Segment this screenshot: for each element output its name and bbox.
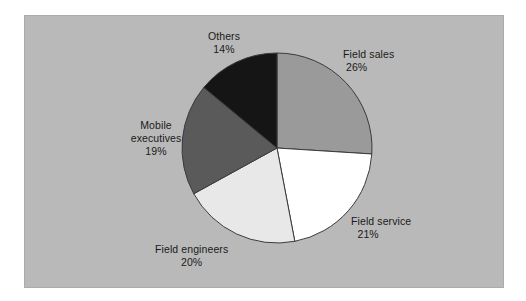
- pie-label-field-sales: Field sales 26%: [343, 48, 394, 74]
- pie-slice-group: [182, 53, 372, 243]
- pie-label-others: Others 14%: [197, 30, 251, 56]
- pie-label-mobile-executives-name-line2: executives: [120, 132, 192, 145]
- pie-label-field-engineers-name: Field engineers: [155, 243, 228, 256]
- pie-label-field-engineers: Field engineers 20%: [155, 243, 228, 269]
- pie-label-field-engineers-percent: 20%: [155, 256, 228, 269]
- pie-label-field-service-percent: 21%: [351, 228, 411, 241]
- pie-label-mobile-executives-name-line1: Mobile: [120, 119, 192, 132]
- pie-label-field-service-name: Field service: [351, 215, 411, 228]
- pie-label-mobile-executives: Mobile executives 19%: [120, 119, 192, 158]
- pie-label-mobile-executives-percent: 19%: [120, 145, 192, 158]
- pie-chart-figure: Field sales 26% Field service 21% Field …: [0, 0, 526, 301]
- pie-label-others-name: Others: [197, 30, 251, 43]
- pie-chart-graphic: [0, 0, 526, 301]
- pie-label-field-sales-name: Field sales: [343, 48, 394, 61]
- pie-label-field-service: Field service 21%: [351, 215, 411, 241]
- pie-label-others-percent: 14%: [197, 43, 251, 56]
- pie-label-field-sales-percent: 26%: [343, 61, 394, 74]
